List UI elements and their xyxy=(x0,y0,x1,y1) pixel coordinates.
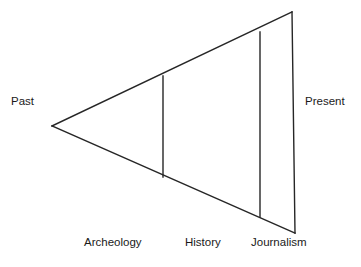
segment-label-archeology: Archeology xyxy=(84,236,142,249)
axis-label-present: Present xyxy=(305,95,345,108)
diagram-canvas: Past Present Archeology History Journali… xyxy=(0,0,361,267)
axis-label-past: Past xyxy=(11,95,34,108)
segment-label-history: History xyxy=(185,236,221,249)
wedge-upper-edge xyxy=(52,12,292,126)
segment-label-journalism: Journalism xyxy=(251,236,307,249)
wedge-lower-edge xyxy=(52,126,295,233)
wedge-right-edge xyxy=(292,12,295,233)
wedge-diagram-graphic xyxy=(0,0,361,267)
